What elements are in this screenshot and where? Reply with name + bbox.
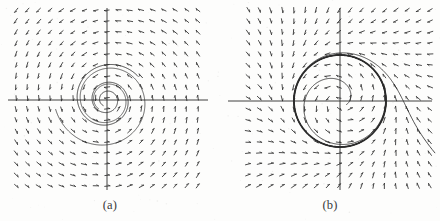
figure-container: (a) (b) [0, 0, 440, 221]
phase-portrait-b [220, 0, 440, 221]
panel-a: (a) [0, 0, 220, 221]
panel-a-caption: (a) [0, 198, 220, 213]
panel-b: (b) [220, 0, 440, 221]
panel-b-caption: (b) [220, 198, 440, 213]
phase-portrait-a [0, 0, 220, 221]
